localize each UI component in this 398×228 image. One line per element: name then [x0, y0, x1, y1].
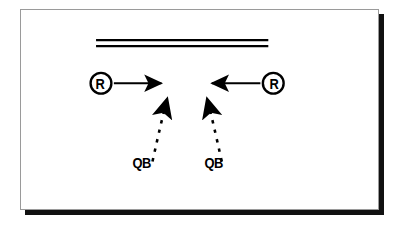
play-diagram-canvas — [21, 10, 378, 209]
quarterback-left-label: QB — [133, 155, 151, 170]
route-qb-left — [152, 98, 167, 161]
receiver-left-label: R — [95, 77, 104, 91]
diagram-stage: R R QB QB — [0, 0, 398, 228]
play-diagram-card: R R QB QB — [20, 9, 379, 210]
route-qb-right — [207, 98, 222, 161]
line-of-scrimmage — [96, 40, 268, 46]
receiver-right-label: R — [269, 77, 278, 91]
quarterback-right-label: QB — [205, 155, 223, 170]
